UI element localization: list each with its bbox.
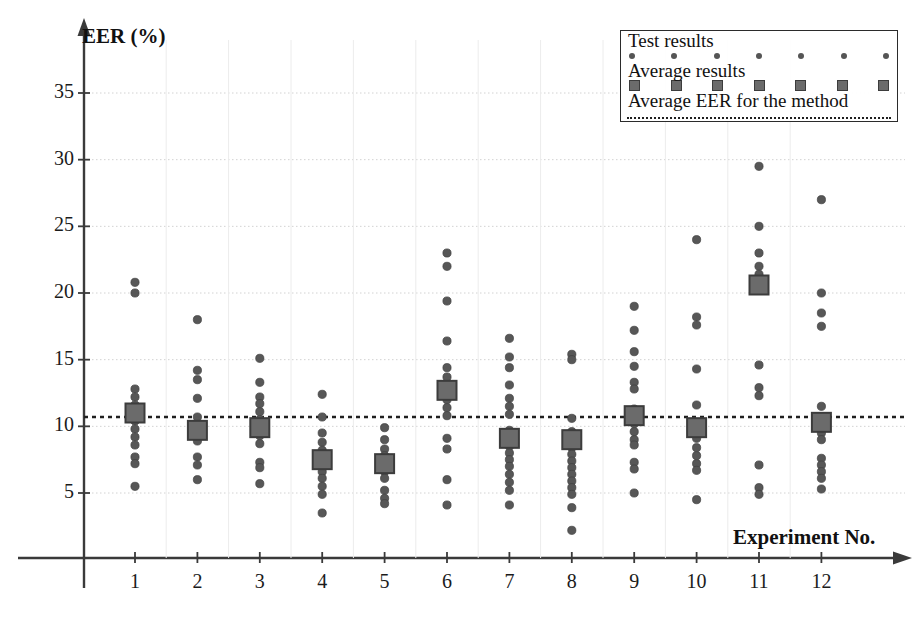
x-tick-label: 11 xyxy=(739,570,779,593)
test-result-point xyxy=(443,412,451,420)
test-result-point xyxy=(568,504,576,512)
test-result-point xyxy=(693,444,701,452)
legend-row-average-eer: Average EER for the method xyxy=(621,91,897,121)
x-tick-label: 4 xyxy=(302,570,342,593)
test-result-point xyxy=(131,278,139,286)
x-tick-label: 5 xyxy=(365,570,405,593)
y-tick-label: 35 xyxy=(32,80,74,103)
x-axis-title: Experiment No. xyxy=(733,525,875,550)
y-tick-label: 5 xyxy=(32,480,74,503)
legend-dot-icon xyxy=(798,53,804,59)
x-tick-label: 6 xyxy=(427,570,467,593)
test-result-point xyxy=(318,509,326,517)
test-result-point xyxy=(755,162,763,170)
legend-dot-icon xyxy=(714,53,720,59)
legend-dot-icon xyxy=(841,53,847,59)
test-result-point xyxy=(256,400,264,408)
test-result-point xyxy=(505,478,513,486)
test-result-point xyxy=(131,289,139,297)
y-tick-label: 15 xyxy=(32,347,74,370)
x-tick-label: 7 xyxy=(489,570,529,593)
test-result-point xyxy=(630,489,638,497)
average-result-marker xyxy=(625,406,644,425)
test-result-point xyxy=(443,337,451,345)
test-result-point xyxy=(755,461,763,469)
test-result-point xyxy=(817,436,825,444)
test-result-point xyxy=(256,408,264,416)
test-result-point xyxy=(256,354,264,362)
x-tick-label: 12 xyxy=(801,570,841,593)
y-tick-label: 20 xyxy=(32,280,74,303)
test-result-point xyxy=(443,297,451,305)
test-result-point xyxy=(443,404,451,412)
legend-label-average-results: Average results xyxy=(628,60,745,82)
test-result-point xyxy=(755,262,763,270)
test-result-point xyxy=(381,424,389,432)
y-axis-title: EER (%) xyxy=(82,24,165,49)
test-result-point xyxy=(817,485,825,493)
test-result-point xyxy=(256,440,264,448)
test-result-point xyxy=(755,361,763,369)
legend-square-icon xyxy=(878,80,889,91)
legend-dot-icon xyxy=(756,53,762,59)
test-result-point xyxy=(381,474,389,482)
test-result-point xyxy=(505,334,513,342)
test-result-point xyxy=(505,462,513,470)
legend-dot-icon xyxy=(883,53,889,59)
test-result-point xyxy=(817,289,825,297)
test-result-point xyxy=(443,501,451,509)
test-result-point xyxy=(755,249,763,257)
test-result-point xyxy=(256,464,264,472)
test-result-point xyxy=(817,474,825,482)
legend-dot-icon xyxy=(671,53,677,59)
test-result-point xyxy=(630,465,638,473)
test-result-point xyxy=(381,436,389,444)
test-result-point xyxy=(131,393,139,401)
test-result-point xyxy=(131,433,139,441)
test-result-point xyxy=(318,490,326,498)
test-result-point xyxy=(505,410,513,418)
test-result-point xyxy=(630,428,638,436)
test-result-point xyxy=(381,500,389,508)
test-result-point xyxy=(693,496,701,504)
test-result-point xyxy=(568,414,576,422)
test-result-point xyxy=(443,445,451,453)
test-result-point xyxy=(443,262,451,270)
eer-scatter-chart: EER (%) Experiment No. 5101520253035 123… xyxy=(0,0,922,626)
test-result-point xyxy=(755,222,763,230)
test-result-point xyxy=(630,302,638,310)
average-result-marker xyxy=(438,381,457,400)
average-result-marker xyxy=(500,429,519,448)
test-result-point xyxy=(193,394,201,402)
test-result-point xyxy=(630,348,638,356)
y-tick-label: 10 xyxy=(32,413,74,436)
test-result-point xyxy=(630,326,638,334)
test-result-point xyxy=(193,366,201,374)
test-result-point xyxy=(505,394,513,402)
test-result-point xyxy=(693,466,701,474)
average-result-marker xyxy=(562,430,581,449)
x-tick-label: 8 xyxy=(552,570,592,593)
test-result-point xyxy=(817,322,825,330)
test-result-point xyxy=(193,453,201,461)
x-tick-label: 1 xyxy=(115,570,155,593)
average-result-marker xyxy=(313,450,332,469)
test-result-point xyxy=(630,385,638,393)
test-result-point xyxy=(630,441,638,449)
test-result-point xyxy=(817,196,825,204)
test-result-point xyxy=(318,482,326,490)
test-result-point xyxy=(318,438,326,446)
chart-legend: Test results Average results xyxy=(620,30,898,122)
x-tick-label: 10 xyxy=(677,570,717,593)
legend-dashed-line-icon xyxy=(627,117,891,119)
test-result-point xyxy=(630,362,638,370)
average-result-marker xyxy=(375,454,394,473)
average-result-marker xyxy=(687,418,706,437)
test-result-point xyxy=(131,460,139,468)
test-result-point xyxy=(505,470,513,478)
test-result-point xyxy=(693,401,701,409)
average-result-marker xyxy=(750,276,769,295)
test-result-point xyxy=(693,365,701,373)
test-result-point xyxy=(131,425,139,433)
x-axis-arrow-icon xyxy=(893,552,912,565)
